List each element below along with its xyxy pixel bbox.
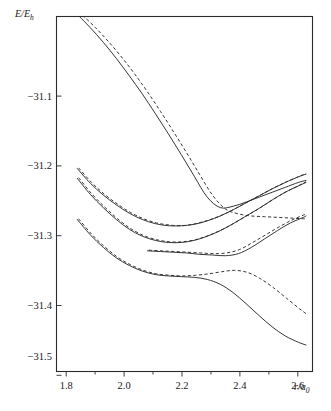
y-tick-label: −31.5 <box>28 351 52 362</box>
y-tick-label: −31.4 <box>28 300 53 311</box>
x-tick-label: 2.6 <box>291 380 304 391</box>
y-tick-label: −31.1 <box>28 91 52 102</box>
y-tick-label: −31.3 <box>28 230 52 241</box>
x-tick-label: 2.0 <box>118 380 131 391</box>
x-tick-label: 2.2 <box>175 380 188 391</box>
y-tick-label: −31.2 <box>28 160 52 171</box>
potential-energy-curves-chart: E/Eh r/a0 −31.1 −31.2 −31.3 −31.4 −31.5 … <box>0 0 331 411</box>
y-axis-label-subscript: h <box>30 13 34 22</box>
x-tick-label: 1.8 <box>60 380 73 391</box>
x-axis-label-subscript: 0 <box>306 386 310 395</box>
chart-background <box>0 0 331 411</box>
x-tick-label: 2.4 <box>233 380 247 391</box>
y-axis-label-main: E/E <box>14 8 30 19</box>
